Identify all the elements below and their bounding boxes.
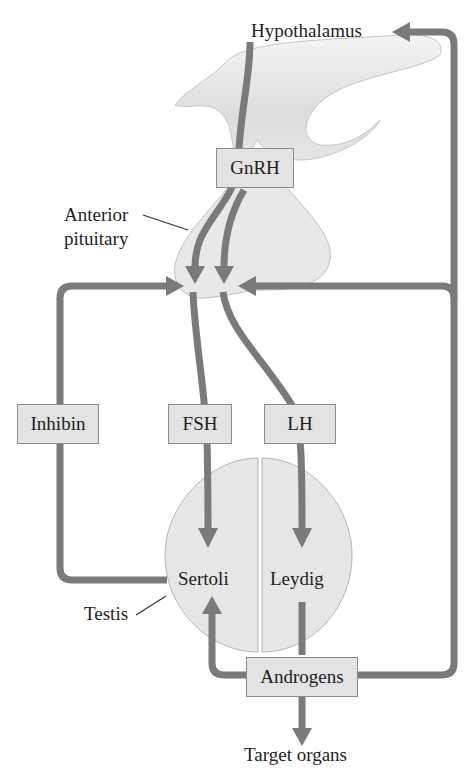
testis-leader-line — [136, 596, 166, 615]
diagram-canvas — [0, 0, 469, 777]
testis-label: Testis — [84, 603, 128, 625]
anterior-pituitary-label-line1: Anterior — [64, 204, 128, 226]
fsh-box: FSH — [168, 404, 232, 444]
hypothalamus-label: Hypothalamus — [251, 20, 362, 42]
testis-shape — [165, 458, 352, 652]
androgens-box: Androgens — [246, 657, 358, 697]
gnrh-box: GnRH — [216, 148, 294, 188]
lh-box: LH — [264, 404, 336, 444]
sertoli-label: Sertoli — [178, 568, 229, 590]
hypothalamus-tissue — [175, 35, 441, 170]
anterior-pituitary-label-line2: pituitary — [64, 228, 128, 250]
anterior-pituitary-leader-line — [143, 215, 188, 230]
target-organs-label: Target organs — [244, 744, 347, 766]
leydig-label: Leydig — [270, 568, 324, 590]
androgens-to-pituitary-arrow — [256, 286, 454, 298]
inhibin-box: Inhibin — [17, 404, 99, 444]
